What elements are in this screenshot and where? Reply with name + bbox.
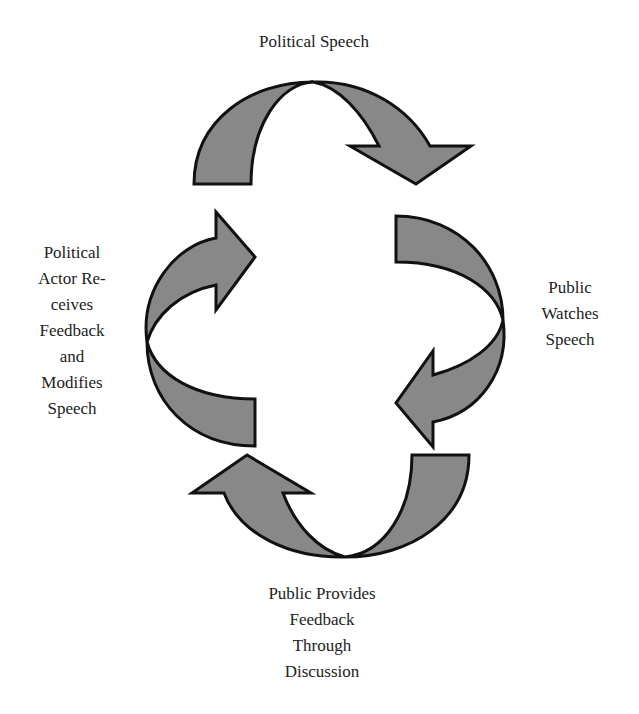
label-line: Speech xyxy=(520,327,620,353)
label-line: Discussion xyxy=(222,659,422,685)
label-line: Public xyxy=(520,275,620,301)
label-line: ceives xyxy=(22,292,122,318)
label-line: Speech xyxy=(22,396,122,422)
label-line: Feedback xyxy=(22,318,122,344)
arrow-top-head xyxy=(313,82,471,184)
label-line: Watches xyxy=(520,301,620,327)
label-line: Public Provides xyxy=(222,581,422,607)
label-political-actor-receives-feedback: Political Actor Re- ceives Feedback and … xyxy=(22,240,122,422)
arrow-left-head xyxy=(146,212,255,342)
arrow-right-head xyxy=(396,320,504,447)
label-line: and xyxy=(22,344,122,370)
arrow-bottom-head xyxy=(192,455,345,557)
label-line: Political xyxy=(22,240,122,266)
arrow-right-tail xyxy=(396,216,503,320)
label-line: Modifies xyxy=(22,370,122,396)
arrow-bottom-tail xyxy=(345,455,469,557)
arrow-left-tail xyxy=(147,342,255,446)
label-line: Feedback xyxy=(222,607,422,633)
arrow-top-tail xyxy=(194,82,313,184)
label-line: Through xyxy=(222,633,422,659)
label-public-provides-feedback: Public Provides Feedback Through Discuss… xyxy=(222,581,422,685)
label-political-speech: Political Speech xyxy=(214,29,414,55)
label-line: Actor Re- xyxy=(22,266,122,292)
cycle-diagram: Political Speech Public Watches Speech P… xyxy=(0,0,639,714)
label-public-watches-speech: Public Watches Speech xyxy=(520,275,620,353)
label-line: Political Speech xyxy=(214,29,414,55)
